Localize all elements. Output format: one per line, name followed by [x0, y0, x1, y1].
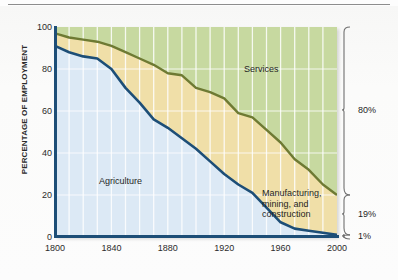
area-label-services: Services — [244, 64, 279, 74]
area-label-agriculture: Agriculture — [99, 176, 142, 186]
area-label-manufacturing-line3: construction — [262, 209, 311, 219]
percentage-brackets: 80%19%1% — [337, 0, 398, 280]
x-tick-1880: 1880 — [148, 243, 188, 253]
x-tick-1840: 1840 — [91, 243, 131, 253]
area-label-manufacturing: Manufacturing, mining, and construction — [262, 188, 336, 220]
bracket-80pct — [341, 26, 355, 196]
bracket-label-80pct: 80% — [358, 105, 376, 115]
bracket-19pct — [341, 194, 355, 236]
bracket-1pct — [341, 234, 355, 240]
bracket-label-19pct: 19% — [358, 209, 376, 219]
x-tick-1920: 1920 — [204, 243, 244, 253]
y-axis-line — [54, 26, 57, 238]
area-label-manufacturing-line1: Manufacturing, — [262, 188, 322, 198]
x-tick-1960: 1960 — [261, 243, 301, 253]
area-label-manufacturing-line2: mining, and — [262, 199, 309, 209]
bracket-label-1pct: 1% — [358, 231, 371, 241]
x-axis-line — [54, 235, 339, 238]
x-tick-1800: 1800 — [35, 243, 75, 253]
